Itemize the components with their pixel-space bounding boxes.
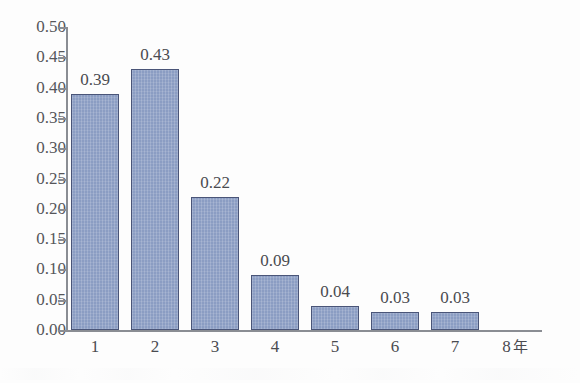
chart-figure: 0.500.450.400.350.300.250.200.150.100.05… xyxy=(0,0,580,383)
y-axis-tick-mark xyxy=(58,179,66,181)
bar-column: 0.09 xyxy=(251,275,299,330)
bar-value-label: 0.22 xyxy=(181,174,249,191)
bar-column: 0.03 xyxy=(371,312,419,330)
bar xyxy=(191,197,239,330)
y-axis-tick-mark xyxy=(58,330,66,332)
x-axis-tick-label: 7 xyxy=(425,338,485,355)
y-axis-tick-mark xyxy=(58,269,66,271)
scan-artifact xyxy=(0,368,580,380)
bar xyxy=(431,312,479,330)
x-axis-line xyxy=(66,330,542,332)
bar-column: 0.43 xyxy=(131,69,179,330)
x-axis-tick-label: 8年 xyxy=(485,338,545,355)
bar xyxy=(71,94,119,330)
bar-value-label: 0.03 xyxy=(421,289,489,306)
bar-column: 0.39 xyxy=(71,94,119,330)
y-axis-tick-mark xyxy=(58,300,66,302)
x-axis-tick-label: 6 xyxy=(365,338,425,355)
bar-value-label: 0.43 xyxy=(121,46,189,63)
y-axis-tick-mark xyxy=(58,88,66,90)
x-axis-tick-label: 1 xyxy=(65,338,125,355)
bar-value-label: 0.39 xyxy=(61,71,129,88)
bar xyxy=(311,306,359,330)
y-axis-tick-mark xyxy=(58,148,66,150)
bar-column: 0.22 xyxy=(191,197,239,330)
bar-column: 0.04 xyxy=(311,306,359,330)
bar-value-label: 0.03 xyxy=(361,289,429,306)
y-axis-tick-mark xyxy=(58,118,66,120)
plot-area: 0.500.450.400.350.300.250.200.150.100.05… xyxy=(0,0,580,383)
bar xyxy=(371,312,419,330)
bar-column: 0.03 xyxy=(431,312,479,330)
x-axis-tick-label: 4 xyxy=(245,338,305,355)
x-axis-tick-label: 2 xyxy=(125,338,185,355)
x-axis-tick-label: 5 xyxy=(305,338,365,355)
bar xyxy=(251,275,299,330)
y-axis-tick-mark xyxy=(58,209,66,211)
y-axis-tick-mark xyxy=(58,57,66,59)
bar-value-label: 0.04 xyxy=(301,283,369,300)
bar xyxy=(131,69,179,330)
bar-value-label: 0.09 xyxy=(241,252,309,269)
y-axis-tick-mark xyxy=(58,239,66,241)
x-axis-tick-label: 3 xyxy=(185,338,245,355)
y-axis-tick-mark xyxy=(58,27,66,29)
x-axis-unit-label: 年 xyxy=(511,339,528,355)
